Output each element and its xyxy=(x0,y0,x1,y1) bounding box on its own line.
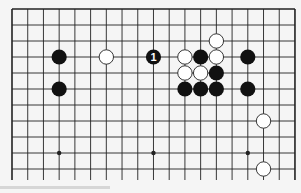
white-stone[interactable] xyxy=(256,114,270,128)
white-stone[interactable] xyxy=(178,50,192,64)
move-number-label: 1 xyxy=(150,51,156,63)
black-stone[interactable] xyxy=(52,81,67,96)
scrollbar-fragment xyxy=(0,186,110,189)
black-stone[interactable] xyxy=(193,81,208,96)
white-stone[interactable] xyxy=(193,66,207,80)
black-stone[interactable] xyxy=(240,49,255,64)
star-point xyxy=(151,151,155,155)
white-stone[interactable] xyxy=(256,162,270,176)
black-stone[interactable] xyxy=(209,81,224,96)
white-stone[interactable] xyxy=(209,34,223,48)
white-stone[interactable] xyxy=(178,66,192,80)
star-point xyxy=(57,151,61,155)
black-stone[interactable] xyxy=(193,49,208,64)
black-stone[interactable] xyxy=(52,49,67,64)
black-stone[interactable] xyxy=(209,65,224,80)
black-stone[interactable] xyxy=(177,81,192,96)
go-board[interactable]: 1 xyxy=(0,0,301,193)
black-stone[interactable] xyxy=(240,81,255,96)
star-point xyxy=(246,151,250,155)
black-stone[interactable]: 1 xyxy=(146,49,161,64)
white-stone[interactable] xyxy=(209,50,223,64)
white-stone[interactable] xyxy=(99,50,113,64)
